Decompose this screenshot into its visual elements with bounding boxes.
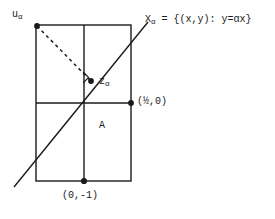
label-z-alpha-subscript: α: [105, 80, 110, 88]
label-z-alpha: zα: [99, 76, 110, 87]
half-zero-point-dot: [128, 100, 134, 106]
label-point-zero-neg-one: (0,-1): [62, 190, 98, 201]
z-alpha-point-dot: [88, 78, 94, 84]
u-alpha-point-dot: [34, 23, 40, 29]
zero-neg-one-point-dot: [81, 178, 87, 184]
label-point-half-zero: (½,0): [137, 96, 167, 107]
label-u-alpha: uα: [12, 9, 23, 20]
label-X-alpha-definition: = {(x,y): y=αx}: [156, 14, 252, 25]
label-region-a: A: [99, 120, 105, 131]
label-X-alpha-set: Xα = {(x,y): y=αx}: [145, 14, 252, 25]
label-u-alpha-subscript: α: [18, 13, 23, 21]
geometry-figure-canvas: [0, 0, 275, 219]
figure-background: [0, 0, 275, 219]
